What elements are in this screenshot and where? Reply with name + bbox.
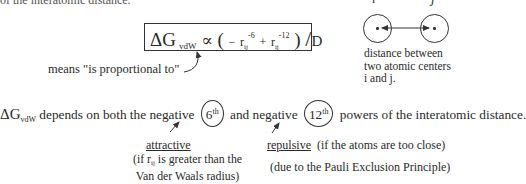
- twelfth-power-circle: 12th: [304, 100, 334, 127]
- power-12-sup: th: [322, 107, 328, 116]
- caption-line-2: two atomic centers: [364, 60, 451, 73]
- atom-j-label: j: [431, 0, 435, 7]
- sixth-power-circle: 6th: [201, 100, 224, 127]
- vdw-subscript: vdW: [20, 115, 36, 124]
- power-6-sup: th: [212, 107, 218, 116]
- power-12: 12: [309, 107, 322, 122]
- delta-g: ΔG: [0, 106, 20, 122]
- repulsive-note: (due to the Pauli Exclusion Principle): [270, 160, 450, 175]
- atom-i-center: [376, 27, 379, 30]
- caption-line-1: distance between: [364, 47, 451, 60]
- atom-i-label: i: [372, 0, 376, 7]
- attractive-note: (if rij is greater than the Van der Waal…: [133, 153, 242, 183]
- attr-note-pre: (if r: [133, 152, 151, 166]
- atom-j-center: [433, 27, 436, 30]
- statement-part-3: powers of the interatomic distance.: [340, 107, 526, 122]
- dependency-statement: ΔGvdW depends on both the negative 6th a…: [0, 100, 526, 127]
- caption-line-3: i and j.: [364, 72, 451, 85]
- repulsive-line: repulsive (if the atoms are too close): [267, 138, 445, 153]
- statement-part-1: depends on both the negative: [36, 107, 194, 122]
- statement-part-2: and negative: [230, 107, 298, 122]
- repulsive-label: repulsive: [267, 138, 311, 152]
- repulsive-condition: (if the atoms are too close): [311, 138, 445, 152]
- proportional-annotation: means "is proportional to": [48, 62, 179, 77]
- distance-caption: distance between two atomic centers i an…: [364, 47, 451, 85]
- attractive-label: attractive: [146, 138, 191, 153]
- attr-note-line-2: Van der Waals radius): [133, 170, 242, 183]
- attr-note-post: is greater than the: [155, 152, 242, 166]
